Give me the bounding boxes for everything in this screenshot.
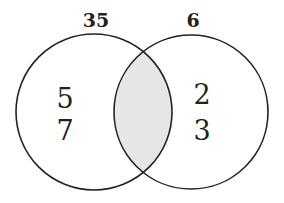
- set-element: 2: [193, 79, 210, 110]
- set-element: 3: [193, 115, 210, 146]
- set-element: 7: [56, 115, 73, 146]
- set-label-right: 6: [186, 9, 199, 31]
- venn-diagram: 35 6 5 7 2 3: [0, 0, 284, 203]
- set-element: 5: [56, 83, 73, 114]
- set-label-left: 35: [83, 9, 109, 31]
